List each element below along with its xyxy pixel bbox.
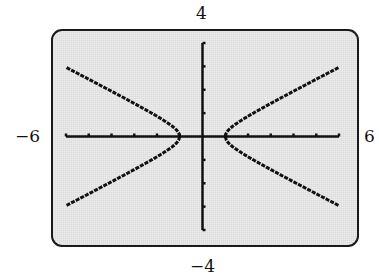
hyperbola-branch <box>225 137 339 206</box>
hyperbola-plot <box>0 0 379 279</box>
hyperbola-branch <box>66 137 180 206</box>
hyperbola-branch <box>66 67 180 136</box>
axes <box>66 43 339 230</box>
hyperbola-branch <box>225 67 339 136</box>
